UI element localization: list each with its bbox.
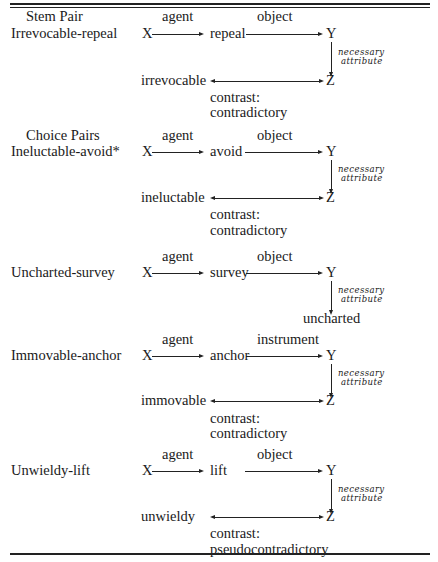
node-adjective: immovable [141,392,206,408]
node-adjective: unwieldy [141,508,195,524]
node-x: X [142,462,152,478]
rel-object-label: object [257,8,292,24]
attribute-label-2: attribute [341,295,383,304]
object-arrow [245,471,318,472]
node-x: X [142,25,152,41]
node-x: X [142,143,152,159]
pair-label: Ineluctable-avoid* [11,143,120,159]
contrast-arrow [215,401,319,402]
arrowhead-right-icon [199,32,204,36]
node-adjective: ineluctable [141,189,205,205]
node-z: Z [326,72,335,88]
pair-label: Irrevocable-repeal [11,25,117,41]
node-x: X [142,264,152,280]
attribute-label-2: attribute [341,378,383,387]
node-y: Y [326,25,336,41]
attribute-label-2: attribute [341,57,383,66]
rel-object-label: object [257,446,292,462]
attribute-arrow [331,364,332,394]
node-y: Y [326,143,336,159]
node-z: Z [326,392,335,408]
node-y: Y [326,347,336,363]
arrowhead-right-icon [318,150,323,154]
contrast-label: contrast: [210,410,260,426]
pair-label: Immovable-anchor [11,347,121,363]
agent-arrow [152,471,199,472]
node-adjective: irrevocable [141,72,206,88]
pair-label: Uncharted-survey [11,264,115,280]
attribute-label-2: attribute [341,174,383,183]
attribute-label-2: attribute [341,494,383,503]
node-verb: avoid [210,143,242,159]
contrast-type: pseudocontradictory [210,541,328,557]
contrast-label: contrast: [210,525,260,541]
attribute-arrow [331,42,332,73]
rel-object-label: object [257,248,292,264]
arrowhead-right-icon [199,469,204,473]
node-z: Z [326,508,335,524]
analogy-block-choice-4: Unwieldy-lift agent object X lift Y nece… [0,441,438,561]
arrowhead-right-icon [318,469,323,473]
contrast-arrow [215,81,319,82]
attribute-arrow [331,281,332,311]
object-arrow [245,152,318,153]
section-heading: Stem Pair [26,8,83,24]
analogy-block-choice-1: Choice Pairs Ineluctable-avoid* agent ob… [0,116,438,236]
rel-agent-label: agent [162,127,193,143]
arrowhead-right-icon [319,79,324,83]
arrowhead-right-icon [318,354,323,358]
contrast-arrow [215,517,319,518]
node-verb: survey [210,264,249,280]
arrowhead-right-icon [318,271,323,275]
rel-agent-label: agent [162,248,193,264]
rel-agent-label: agent [162,8,193,24]
object-arrow [246,34,318,35]
agent-arrow [152,356,199,357]
contrast-arrow [215,198,319,199]
object-arrow [246,273,318,274]
contrast-label: contrast: [210,89,260,105]
rel-object-label: object [257,127,292,143]
arrowhead-right-icon [318,32,323,36]
agent-arrow [152,273,199,274]
arrowhead-right-icon [199,354,204,358]
node-verb: anchor [210,347,249,363]
section-heading: Choice Pairs [26,127,100,143]
arrowhead-right-icon [319,196,324,200]
contrast-type: contradictory [210,425,287,441]
rel-instrument-label: instrument [257,331,319,347]
agent-arrow [152,34,199,35]
analogy-block-stem: Stem Pair Irrevocable-repeal agent objec… [0,0,438,120]
analogy-block-choice-3: Immovable-anchor agent instrument X anch… [0,326,438,446]
attribute-arrow [331,160,332,190]
node-adjective: uncharted [303,310,360,326]
node-y: Y [326,264,336,280]
agent-arrow [152,152,199,153]
instrument-arrow [246,356,318,357]
contrast-label: contrast: [210,206,260,222]
arrowhead-right-icon [199,271,204,275]
rel-agent-label: agent [162,331,193,347]
arrowhead-right-icon [319,515,324,519]
node-verb: lift [210,462,227,478]
node-y: Y [326,462,336,478]
rel-agent-label: agent [162,446,193,462]
node-x: X [142,347,152,363]
attribute-arrow [331,479,332,510]
pair-label: Unwieldy-lift [11,462,90,478]
node-verb: repeal [210,25,245,41]
bottom-rule [10,553,430,555]
node-z: Z [326,189,335,205]
arrowhead-right-icon [319,399,324,403]
arrowhead-right-icon [199,150,204,154]
